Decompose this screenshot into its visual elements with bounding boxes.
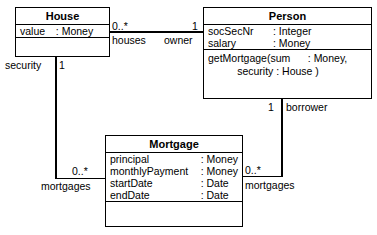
attribute-name: startDate: [106, 177, 198, 189]
multiplicity-mortgage-house-side: 0..*: [72, 165, 88, 177]
uml-class-diagram: House value : Money Person socSecNr : In…: [0, 0, 377, 235]
association-line-house-mortgage-horizontal: [55, 178, 107, 180]
attribute-type: : Date: [198, 177, 242, 189]
role-mortgages-person-side: mortgages: [245, 179, 295, 191]
attributes-compartment-mortgage: principal : Money monthlyPayment : Money…: [106, 153, 242, 202]
class-box-house[interactable]: House value : Money: [15, 7, 110, 57]
attribute-row: endDate : Date: [106, 189, 242, 201]
attribute-name: monthlyPayment: [106, 165, 198, 177]
operations-compartment-person: getMortgage(sum : Money, security : Hous…: [204, 50, 371, 80]
class-box-mortgage[interactable]: Mortgage principal : Money monthlyPaymen…: [105, 135, 243, 227]
multiplicity-person-side: 1: [192, 20, 198, 32]
role-borrower: borrower: [286, 101, 327, 113]
attribute-name: value: [16, 25, 53, 37]
attribute-type: : Money: [270, 37, 371, 49]
association-line-house-mortgage-vertical: [55, 56, 57, 179]
operation-signature-line: getMortgage(sum : Money,: [204, 52, 371, 65]
attribute-row: monthlyPayment : Money: [106, 165, 242, 177]
attribute-row: salary : Money: [204, 37, 371, 49]
multiplicity-person-borrower: 1: [268, 101, 274, 113]
multiplicity-mortgage-person-side: 0..*: [245, 164, 261, 176]
attribute-type: : Money: [198, 165, 242, 177]
role-mortgages-house-side: mortgages: [41, 180, 91, 192]
operations-compartment-mortgage: [106, 202, 242, 212]
class-name-mortgage: Mortgage: [106, 136, 242, 153]
operation-signature-line: security : House ): [204, 65, 371, 78]
association-line-person-mortgage-vertical: [281, 98, 283, 177]
class-name-house: House: [16, 8, 109, 25]
class-box-person[interactable]: Person socSecNr : Integer salary : Money…: [203, 7, 372, 99]
attribute-type: : Date: [198, 189, 242, 201]
attribute-row: socSecNr : Integer: [204, 25, 371, 37]
attribute-name: endDate: [106, 189, 198, 201]
multiplicity-house-security: 1: [59, 59, 65, 71]
attribute-row: startDate : Date: [106, 177, 242, 189]
attribute-type: : Money: [198, 153, 242, 165]
attribute-row: principal : Money: [106, 153, 242, 165]
attribute-row: value : Money: [16, 25, 109, 37]
attribute-type: : Money: [53, 25, 109, 37]
role-houses: houses: [112, 34, 146, 46]
class-name-person: Person: [204, 8, 371, 25]
attribute-type: : Integer: [270, 25, 371, 37]
attributes-compartment-person: socSecNr : Integer salary : Money: [204, 25, 371, 50]
role-security: security: [5, 59, 41, 71]
attributes-compartment-house: value : Money: [16, 25, 109, 38]
attribute-name: salary: [204, 37, 270, 49]
operations-compartment-house: [16, 38, 109, 48]
attribute-name: principal: [106, 153, 198, 165]
role-owner: owner: [164, 34, 193, 46]
attribute-name: socSecNr: [204, 25, 270, 37]
multiplicity-house-side: 0..*: [112, 20, 128, 32]
